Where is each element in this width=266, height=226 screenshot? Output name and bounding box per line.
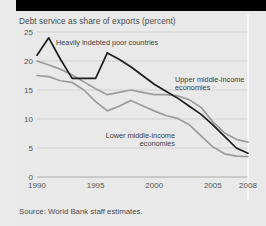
y-axis-ticks: 0510152025 (24, 28, 33, 182)
line-chart-plot: 0510152025 19901995200020052008 Heavily … (0, 0, 266, 226)
x-axis-tick-label: 2008 (239, 181, 257, 190)
chart-figure: Debt service as share of exports (percen… (0, 0, 266, 226)
x-axis-ticks: 19901995200020052008 (28, 181, 257, 190)
annotation-lower-middle-income-line2: economies (140, 139, 176, 148)
y-axis-tick-label: 15 (24, 86, 33, 95)
x-axis-tick-label: 1990 (28, 181, 46, 190)
x-axis-tick-label: 2005 (204, 181, 222, 190)
annotation-hipc: Heavily indebted poor countries (56, 38, 159, 47)
y-axis-tick-label: 25 (24, 28, 33, 37)
annotation-upper-middle-income-line2: economies (175, 83, 211, 92)
source-note: Source: World Bank staff estimates. (19, 207, 143, 216)
y-axis-tick-label: 5 (29, 144, 34, 153)
x-axis-tick-label: 1995 (87, 181, 105, 190)
x-axis-tick-label: 2000 (145, 181, 163, 190)
y-axis-tick-label: 10 (24, 115, 33, 124)
y-axis-tick-label: 20 (24, 57, 33, 66)
